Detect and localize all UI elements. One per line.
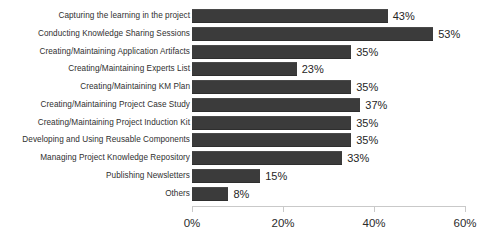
bar <box>192 9 388 23</box>
x-axis-tick <box>283 206 284 212</box>
category-label: Creating/Maintaining Experts List <box>68 65 190 73</box>
x-axis-tick-label: 40% <box>362 218 385 230</box>
category-label: Others <box>165 190 190 198</box>
category-label: Creating/Maintaining KM Plan <box>80 83 190 91</box>
bar-row: 37% <box>192 98 465 112</box>
plot-area: 43%53%35%23%35%37%35%35%33%15%8% <box>192 9 465 206</box>
bar <box>192 116 351 130</box>
bar-row: 35% <box>192 116 465 130</box>
category-label: Conducting Knowledge Sharing Sessions <box>38 30 190 38</box>
bar-value-label: 8% <box>228 188 249 199</box>
category-label: Capturing the learning in the project <box>58 12 190 20</box>
category-label: Managing Project Knowledge Repository <box>40 154 190 162</box>
bar-row: 35% <box>192 80 465 94</box>
bar <box>192 27 433 41</box>
bar-row: 15% <box>192 169 465 183</box>
bar-row: 33% <box>192 151 465 165</box>
bar <box>192 80 351 94</box>
category-label: Publishing Newsletters <box>106 172 190 180</box>
x-axis-tick-label: 60% <box>453 218 476 230</box>
bar-value-label: 35% <box>351 82 378 93</box>
bar-value-label: 37% <box>360 99 387 110</box>
bar-row: 35% <box>192 45 465 59</box>
bar <box>192 62 297 76</box>
bar-row: 35% <box>192 133 465 147</box>
bar <box>192 133 351 147</box>
bar <box>192 151 342 165</box>
category-label: Developing and Using Reusable Components <box>22 136 190 144</box>
bar-value-label: 35% <box>351 135 378 146</box>
category-label: Creating/Maintaining Project Induction K… <box>38 119 190 127</box>
x-axis-tick <box>465 206 466 212</box>
bar-value-label: 35% <box>351 117 378 128</box>
bar-value-label: 15% <box>260 170 287 181</box>
bar <box>192 98 360 112</box>
bar-value-label: 43% <box>388 11 415 22</box>
category-label: Creating/Maintaining Application Artifac… <box>40 48 190 56</box>
bar-row: 43% <box>192 9 465 23</box>
bar <box>192 169 260 183</box>
x-axis-line <box>192 206 465 207</box>
bar-row: 8% <box>192 187 465 201</box>
bar-value-label: 23% <box>297 64 324 75</box>
bar-value-label: 53% <box>433 28 460 39</box>
x-axis-tick-label: 0% <box>184 218 201 230</box>
x-axis-tick-label: 20% <box>271 218 294 230</box>
x-axis-tick <box>192 206 193 212</box>
x-axis-tick <box>374 206 375 212</box>
bar <box>192 45 351 59</box>
bar <box>192 187 228 201</box>
bar-row: 23% <box>192 62 465 76</box>
bar-value-label: 35% <box>351 46 378 57</box>
bar-value-label: 33% <box>342 153 369 164</box>
category-label: Creating/Maintaining Project Case Study <box>41 101 190 109</box>
bar-row: 53% <box>192 27 465 41</box>
